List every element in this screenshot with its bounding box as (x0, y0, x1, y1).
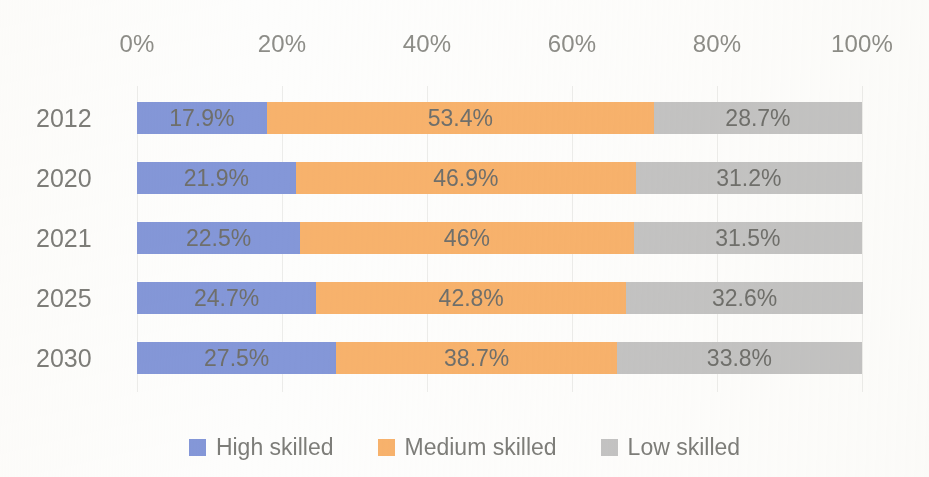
bar-segment-high-skilled-2020: 21.9% (137, 162, 296, 194)
data-label: 31.5% (634, 222, 862, 254)
data-label: 32.6% (626, 282, 862, 314)
data-label: 38.7% (336, 342, 617, 374)
data-label: 33.8% (617, 342, 862, 374)
bar-row: 202524.7%42.8%32.6% (0, 282, 929, 314)
bar-segment-medium-skilled-2020: 46.9% (296, 162, 636, 194)
bar-segment-medium-skilled-2021: 46% (300, 222, 634, 254)
stacked-bar-chart: 0%20%40%60%80%100% 201217.9%53.4%28.7%20… (0, 0, 929, 477)
data-label: 21.9% (137, 162, 296, 194)
legend-swatch-icon (601, 439, 618, 456)
category-label-2020: 2020 (36, 162, 124, 194)
data-label: 28.7% (654, 102, 862, 134)
bar-row: 202122.5%46%31.5% (0, 222, 929, 254)
legend-swatch-icon (189, 439, 206, 456)
data-label: 46.9% (296, 162, 636, 194)
bar-segment-high-skilled-2030: 27.5% (137, 342, 336, 374)
bar-row: 203027.5%38.7%33.8% (0, 342, 929, 374)
data-label: 27.5% (137, 342, 336, 374)
plot-area: 201217.9%53.4%28.7%202021.9%46.9%31.2%20… (0, 0, 929, 410)
data-label: 17.9% (137, 102, 267, 134)
category-label-2021: 2021 (36, 222, 124, 254)
bar-segment-high-skilled-2012: 17.9% (137, 102, 267, 134)
data-label: 46% (300, 222, 634, 254)
category-label-2030: 2030 (36, 342, 124, 374)
legend-label: High skilled (216, 436, 334, 459)
chart-legend: High skilledMedium skilledLow skilled (0, 430, 929, 464)
stacked-bar-2020: 21.9%46.9%31.2% (137, 162, 862, 194)
bar-segment-high-skilled-2021: 22.5% (137, 222, 300, 254)
category-label-2025: 2025 (36, 282, 124, 314)
data-label: 22.5% (137, 222, 300, 254)
legend-swatch-icon (378, 439, 395, 456)
bar-segment-medium-skilled-2030: 38.7% (336, 342, 617, 374)
data-label: 53.4% (267, 102, 654, 134)
category-label-2012: 2012 (36, 102, 124, 134)
bar-row: 201217.9%53.4%28.7% (0, 102, 929, 134)
stacked-bar-2030: 27.5%38.7%33.8% (137, 342, 862, 374)
stacked-bar-2021: 22.5%46%31.5% (137, 222, 862, 254)
bar-segment-high-skilled-2025: 24.7% (137, 282, 316, 314)
legend-item-high-skilled[interactable]: High skilled (189, 436, 334, 459)
bar-segment-medium-skilled-2025: 42.8% (316, 282, 626, 314)
data-label: 31.2% (636, 162, 862, 194)
legend-label: Low skilled (628, 436, 741, 459)
bar-segment-low-skilled-2012: 28.7% (654, 102, 862, 134)
bar-segment-low-skilled-2020: 31.2% (636, 162, 862, 194)
legend-label: Medium skilled (405, 436, 557, 459)
bar-segment-low-skilled-2021: 31.5% (634, 222, 862, 254)
bar-segment-low-skilled-2030: 33.8% (617, 342, 862, 374)
legend-item-low-skilled[interactable]: Low skilled (601, 436, 741, 459)
legend-item-medium-skilled[interactable]: Medium skilled (378, 436, 557, 459)
bar-segment-medium-skilled-2012: 53.4% (267, 102, 654, 134)
stacked-bar-2025: 24.7%42.8%32.6% (137, 282, 862, 314)
bar-row: 202021.9%46.9%31.2% (0, 162, 929, 194)
bar-segment-low-skilled-2025: 32.6% (626, 282, 862, 314)
data-label: 24.7% (137, 282, 316, 314)
stacked-bar-2012: 17.9%53.4%28.7% (137, 102, 862, 134)
data-label: 42.8% (316, 282, 626, 314)
